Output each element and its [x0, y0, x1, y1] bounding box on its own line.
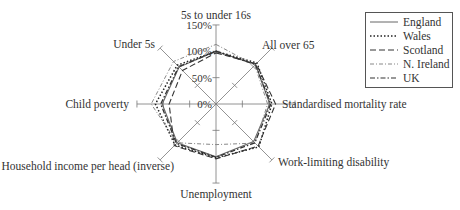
axis-label: Household income per head (inverse) — [2, 160, 175, 173]
legend-label: UK — [403, 72, 420, 84]
legend-label: Wales — [403, 30, 431, 42]
axis-label: Work-limiting disability — [278, 156, 389, 169]
axis-label: All over 65 — [262, 39, 315, 51]
series-scotland — [169, 53, 276, 159]
axis-label: Child poverty — [65, 98, 129, 111]
axis-line — [216, 104, 272, 160]
legend-item-england: England — [370, 15, 441, 28]
axis-label: 5s to under 16s — [181, 9, 251, 21]
legend: England Wales Scotland N. Ireland UK — [365, 12, 453, 88]
axis-label: Unemployment — [180, 188, 252, 201]
legend-label: Scotland — [403, 44, 443, 56]
radial-tick-label: 0% — [197, 98, 212, 110]
legend-item-scotland: Scotland — [370, 43, 443, 56]
legend-label: England — [403, 16, 441, 28]
series-wales — [155, 51, 272, 158]
legend-item-wales: Wales — [370, 29, 431, 42]
axis-label: Standardised mortality rate — [282, 98, 407, 111]
dashed-line-icon — [370, 45, 398, 55]
radial-tick-label: 50% — [192, 72, 212, 84]
axis-line — [160, 104, 216, 160]
axis-label: Under 5s — [113, 38, 155, 50]
series-n-ireland — [151, 44, 267, 144]
dashdot-line-icon — [370, 73, 398, 83]
dotted-line-icon — [370, 31, 398, 41]
axis-line — [216, 48, 272, 104]
legend-item-n-ireland: N. Ireland — [370, 57, 450, 70]
legend-label: N. Ireland — [403, 58, 450, 70]
solid-line-icon — [370, 17, 398, 27]
dashdot-line-icon — [370, 59, 398, 69]
legend-item-uk: UK — [370, 71, 420, 84]
